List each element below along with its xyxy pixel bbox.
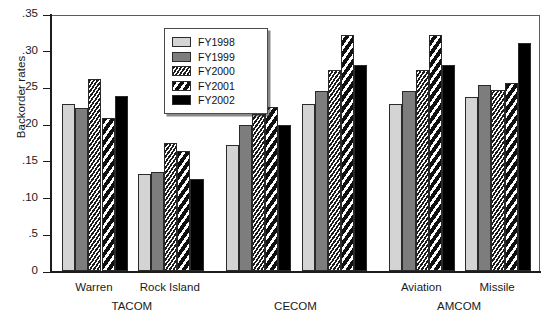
bar-group [302,16,368,271]
legend-swatch-icon [172,81,191,91]
x-tick-label: Missile [437,281,554,293]
bar [518,43,531,271]
legend-label: FY2002 [198,95,235,106]
bar [416,70,429,271]
legend-label: FY1998 [198,37,235,48]
bar [278,125,291,271]
y-tick-label: .15 [8,154,38,166]
bar [505,83,518,271]
bar [239,125,252,271]
bar [465,97,478,271]
legend-item[interactable]: FY2001 [172,79,261,94]
legend-item[interactable]: FY1999 [172,50,261,65]
bar [354,65,367,271]
y-tick-label: .20 [8,117,38,129]
bar [429,35,442,271]
bar [328,70,341,271]
y-tick-label: .30 [8,44,38,56]
plot-area [51,15,540,272]
y-tick-label: 0 [8,264,38,276]
legend-item[interactable]: FY2000 [172,64,261,79]
bar [102,118,115,271]
bar [389,104,402,271]
legend-label: FY2001 [198,81,235,92]
bar [164,143,177,272]
legend-swatch-icon [172,66,191,76]
bar [315,91,328,271]
bar [252,114,265,271]
bar [75,108,88,271]
bar [442,65,455,271]
legend: FY1998FY1999FY2000FY2001FY2002 [164,28,268,114]
bar [341,35,354,271]
bar [478,85,491,271]
bar [62,104,75,271]
bar-group [62,16,128,271]
y-tick-label: .5 [8,227,38,239]
x-group-label: AMCOM [399,300,519,312]
x-tick-label: Rock Island [110,281,230,293]
legend-item[interactable]: FY2002 [172,93,261,108]
bars-layer [52,16,539,271]
bar [491,90,504,271]
bar [265,107,278,271]
legend-swatch-icon [172,52,191,62]
bar [177,151,190,271]
bar [151,172,164,271]
bar [115,96,128,271]
bar [190,179,203,271]
legend-item[interactable]: FY1998 [172,35,261,50]
x-group-label: CECOM [236,300,356,312]
y-axis-line [50,14,52,273]
bar [88,79,101,271]
bar [138,174,151,271]
y-tick-label: .35 [8,7,38,19]
legend-swatch-icon [172,95,191,105]
legend-swatch-icon [172,37,191,47]
legend-label: FY2000 [198,66,235,77]
x-axis-line [50,271,541,273]
bar [226,145,239,271]
bar-group [389,16,455,271]
x-group-label: TACOM [72,300,192,312]
bar-chart-figure: Backorder rates .35.30.25.20.15.10.50 FY… [0,0,554,326]
bar-group [465,16,531,271]
bar [302,104,315,271]
y-tick-label: .25 [8,80,38,92]
legend-label: FY1999 [198,52,235,63]
y-tick-label: .10 [8,191,38,203]
bar [402,91,415,271]
